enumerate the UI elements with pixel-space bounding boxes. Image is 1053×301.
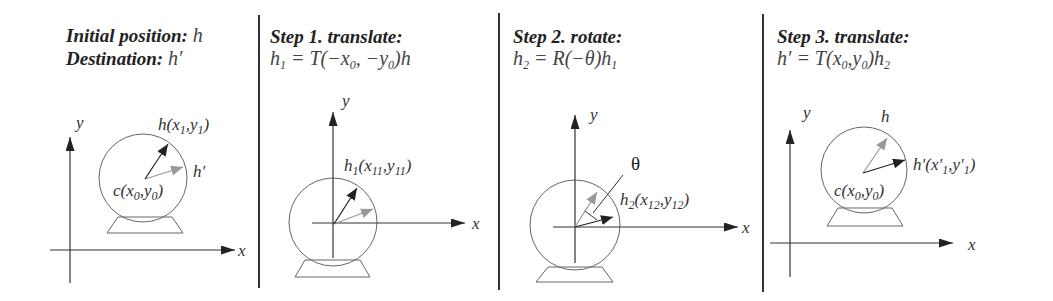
center-label: c(x0,y0) [834, 181, 885, 203]
x-axis-label: x [967, 235, 976, 254]
angle-arc [585, 211, 597, 220]
y-axis-label: y [588, 105, 598, 124]
sphere-base [295, 260, 370, 277]
step1-header: Step 1. translate: [270, 26, 402, 47]
y-axis-label: y [801, 103, 811, 122]
header-initial-position: Initial position: h [65, 24, 203, 46]
point-h2-label: h2(x12,y12) [620, 190, 690, 212]
header-destination: Destination: h′ [65, 47, 183, 69]
step2-equation: h2 = R(−θ)h1 [513, 47, 617, 72]
point-hprime-label: h′ [193, 162, 206, 181]
step2-header: Step 2. rotate: [513, 26, 622, 47]
angle-theta-label: θ [631, 153, 640, 174]
panel-step2-rotate: Step 2. rotate: h2 = R(−θ)h1 y x θ h2(x1… [513, 26, 750, 282]
transformation-diagram: Initial position: h Destination: h′ y x … [0, 0, 1053, 301]
step3-header: Step 3. translate: [777, 26, 909, 47]
step3-equation: h′ = T(x0,y0)h2 [777, 47, 890, 72]
sphere-base [107, 217, 183, 233]
y-axis-label: y [74, 113, 84, 132]
sphere [821, 127, 907, 213]
destination-vector [863, 160, 905, 173]
panel-step3-translate: Step 3. translate: h′ = T(x0,y0)h2 y x h… [770, 26, 976, 277]
point-h-label: h [881, 107, 890, 126]
destination-vector [334, 209, 373, 224]
point-hprime-label: h′(x′1,y′1) [913, 155, 976, 177]
x-axis-label: x [471, 214, 480, 233]
sphere [99, 134, 187, 222]
panel-initial: Initial position: h Destination: h′ y x … [50, 24, 246, 283]
center-label: c(x0,y0) [113, 181, 164, 203]
x-axis-label: x [237, 241, 246, 260]
step1-equation: h1 = T(−x0, −y0)h [270, 47, 411, 72]
panel-step1-translate: Step 1. translate: h1 = T(−x0, −y0)h y x… [270, 26, 480, 277]
initial-vector [863, 138, 887, 173]
sphere-base [536, 267, 613, 282]
sphere-base [827, 208, 903, 226]
destination-vector [145, 167, 183, 179]
y-axis-label: y [340, 91, 350, 110]
x-axis-label: x [741, 218, 750, 237]
point-h-label: h(x1,y1) [158, 115, 210, 137]
translated-vector [334, 188, 357, 224]
initial-vector [145, 144, 168, 179]
point-h1-label: h1(x11,y11) [344, 156, 412, 178]
angle-leader-line [593, 175, 623, 213]
